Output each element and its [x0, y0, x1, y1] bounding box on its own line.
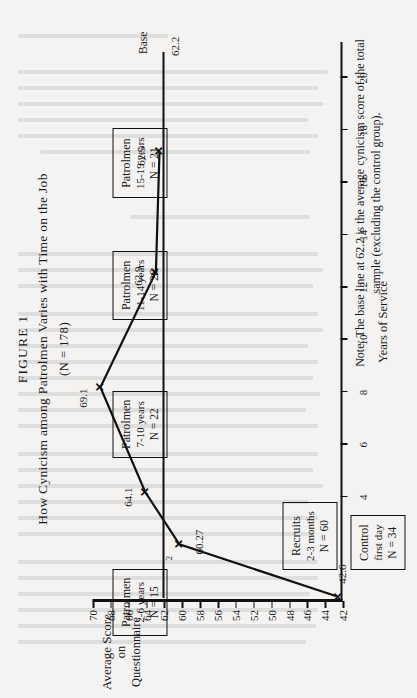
y-tick-label: 50 — [265, 610, 277, 632]
y-tick — [199, 601, 201, 608]
annotation-line3: N = 21 — [146, 137, 160, 189]
figure: FIGURE 1 How Cynicism among Patrolmen Va… — [0, 0, 417, 698]
y-tick — [271, 601, 273, 608]
baseline-value: 62.2 — [168, 37, 180, 56]
data-point-patrolmen-7-10: ✕ — [94, 382, 105, 393]
data-point-recruits: ✕ — [173, 539, 184, 550]
y-tick-label: 46 — [300, 610, 312, 632]
x-tick-label: 4 — [356, 494, 368, 500]
annotation-patrolmen-15-19: Patrolmen 15-19 years N = 21 — [112, 128, 167, 198]
data-label-patrolmen-7-10: 69.1 — [76, 388, 88, 407]
y-tick — [235, 601, 237, 608]
annotation-patrolmen-7-10: Patrolmen 7-10 years N = 22 — [112, 391, 167, 458]
annotation-patrolmen-11-14: Patrolmen 11-14 years N = 26 — [112, 251, 167, 320]
x-axis-line — [340, 42, 343, 602]
annotation-line3: N = 22 — [146, 400, 160, 449]
x-tick-label: 6 — [356, 442, 368, 448]
figure-note: Note: The base line at 62.2 is the avera… — [352, 38, 383, 368]
annotation-line2: 7-10 years — [133, 400, 146, 449]
y-tick-label: 52 — [247, 610, 259, 632]
x-tick — [340, 338, 347, 340]
y-tick — [181, 601, 183, 608]
annotation-line2: 15-19 years — [133, 137, 146, 189]
annotation-line3: N = 60 — [316, 511, 330, 561]
annotation-line2: first day — [371, 524, 384, 561]
baseline-label: Base — [136, 32, 148, 54]
annotation-line1: Patrolmen — [118, 260, 133, 311]
annotation-recruits: Recruits 2-3 months N = 60 — [282, 502, 337, 570]
y-tick — [324, 601, 326, 608]
y-tick-label: 60 — [175, 610, 187, 632]
y-tick-label: 58 — [193, 610, 205, 632]
y-tick — [92, 601, 94, 608]
annotation-line2: 2-6 years — [133, 578, 146, 627]
data-label-recruits: 60.27 — [192, 530, 204, 555]
y-tick-label: 70 — [86, 610, 98, 632]
x-tick — [340, 391, 347, 393]
scanned-page: FIGURE 1 How Cynicism among Patrolmen Va… — [0, 0, 417, 698]
annotation-line1: Control — [356, 524, 371, 561]
y-tick — [217, 601, 219, 608]
annotation-patrolmen-2-6: Patrolmen 2-6 years N = 15 — [112, 569, 167, 636]
x-tick-label: 8 — [356, 390, 368, 396]
x-tick — [340, 286, 347, 288]
annotation-line2: 2-3 months — [303, 511, 316, 561]
figure-sample-n: (N = 178) — [55, 0, 71, 698]
data-point-control: ✕ — [332, 591, 343, 602]
rotated-figure-wrapper: FIGURE 1 How Cynicism among Patrolmen Va… — [0, 0, 417, 698]
x-tick — [340, 181, 347, 183]
annotation-line1: Patrolmen — [118, 400, 133, 449]
annotation-line3: N = 26 — [146, 260, 160, 311]
y-tick — [289, 601, 291, 608]
y-tick-label: 48 — [283, 610, 295, 632]
x-tick — [340, 443, 347, 445]
data-label-patrolmen-2-6: 64.1 — [121, 487, 133, 506]
annotation-line2: 11-14 years — [133, 260, 146, 311]
data-point-patrolmen-2-6: ✕ — [139, 487, 150, 498]
x-tick — [340, 496, 347, 498]
y-tick-label: 54 — [229, 610, 241, 632]
x-tick — [340, 129, 347, 131]
y-tick — [253, 601, 255, 608]
x-tick — [340, 76, 347, 78]
annotation-line1: Recruits — [288, 511, 303, 561]
figure-headline: How Cynicism among Patrolmen Varies with… — [34, 0, 50, 698]
x-tick — [340, 234, 347, 236]
annotation-line1: Patrolmen — [118, 578, 133, 627]
annotation-line1: Patrolmen — [118, 137, 133, 189]
y-tick — [306, 601, 308, 608]
data-label-recruits-months: 2 — [163, 556, 173, 560]
annotation-control: Control first day N = 34 — [350, 515, 405, 570]
figure-label: FIGURE 1 — [14, 0, 30, 698]
y-axis-title-line1: Average Score — [98, 606, 113, 698]
annotation-line3: N = 34 — [384, 524, 398, 561]
y-tick-label: 44 — [318, 610, 330, 632]
y-tick-label: 42 — [336, 610, 348, 632]
y-tick-label: 56 — [211, 610, 223, 632]
annotation-line3: N = 15 — [146, 578, 160, 627]
